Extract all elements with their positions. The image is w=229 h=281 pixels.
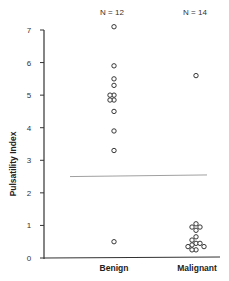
data-point-malignant [190,238,194,242]
data-point-benign [112,64,116,68]
data-point-benign [112,240,116,244]
y-tick-label: 5 [27,91,32,100]
data-point-malignant [190,248,194,252]
group-count-label: N = 12 [100,8,124,17]
data-points [108,25,206,253]
y-tick-label: 1 [27,221,32,230]
x-axis [44,257,220,258]
labels: BenignN = 12MalignantN = 14Pulsatility I… [8,8,217,273]
data-point-benign [112,77,116,81]
category-label-benign: Benign [100,263,129,273]
data-point-benign [112,25,116,29]
group-count-label: N = 14 [183,8,207,17]
data-point-benign [112,129,116,133]
data-point-benign [112,83,116,87]
data-point-benign [108,98,112,102]
data-point-benign [108,93,112,97]
y-tick-label: 2 [27,189,32,198]
data-point-malignant [194,73,198,77]
data-point-malignant [202,244,206,248]
y-axis: 01234567 [27,26,44,263]
cutoff-line [70,175,207,177]
data-point-malignant [198,225,202,229]
data-point-malignant [194,228,198,232]
scatter-chart: 01234567 BenignN = 12MalignantN = 14Puls… [0,0,229,281]
data-point-benign [112,109,116,113]
category-label-malignant: Malignant [177,263,217,273]
data-point-malignant [198,241,202,245]
y-tick-label: 0 [27,254,32,263]
y-tick-label: 4 [27,124,32,133]
y-tick-label: 7 [27,26,32,35]
data-point-malignant [190,225,194,229]
y-axis-title: Pulsatility Index [8,131,18,196]
data-point-malignant [186,244,190,248]
y-tick-label: 3 [27,156,32,165]
data-point-malignant [194,235,198,239]
data-point-benign [112,148,116,152]
y-tick-label: 6 [27,59,32,68]
data-point-malignant [194,222,198,226]
